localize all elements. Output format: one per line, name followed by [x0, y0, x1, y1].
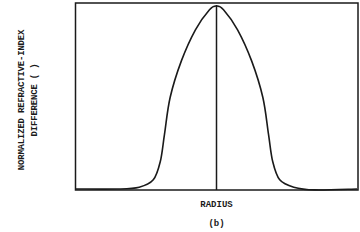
plot-area: [0, 0, 360, 232]
x-axis-label: RADIUS: [75, 200, 358, 210]
figure-caption: (b): [75, 219, 358, 229]
